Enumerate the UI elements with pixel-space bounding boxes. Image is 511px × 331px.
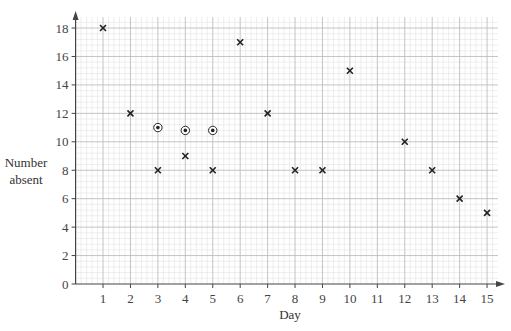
x-tick-label: 3 xyxy=(155,291,162,306)
y-tick-label: 6 xyxy=(62,191,69,206)
x-tick-label: 1 xyxy=(100,291,107,306)
x-tick-label: 15 xyxy=(481,291,494,306)
x-tick-label: 7 xyxy=(264,291,271,306)
x-tick-label: 5 xyxy=(210,291,217,306)
y-axis-ticks: 024681012141618 xyxy=(56,21,76,292)
circled-dot-marker-icon xyxy=(154,123,162,131)
x-axis-ticks: 123456789101112131415 xyxy=(100,284,494,306)
x-axis-arrow-icon xyxy=(496,281,505,287)
scatter-chart: 123456789101112131415 024681012141618 Da… xyxy=(0,0,511,331)
axes xyxy=(73,11,505,287)
y-tick-label: 16 xyxy=(56,49,70,64)
x-tick-label: 8 xyxy=(292,291,299,306)
y-axis-arrow-icon xyxy=(73,11,79,20)
x-tick-label: 2 xyxy=(127,291,134,306)
y-tick-label: 4 xyxy=(62,220,69,235)
y-tick-label: 10 xyxy=(56,134,69,149)
x-tick-label: 10 xyxy=(343,291,356,306)
y-tick-label: 2 xyxy=(62,248,69,263)
circled-dot-marker-icon xyxy=(181,126,189,134)
x-tick-label: 13 xyxy=(426,291,439,306)
x-tick-label: 14 xyxy=(453,291,467,306)
x-tick-label: 12 xyxy=(398,291,411,306)
y-tick-label: 18 xyxy=(56,21,69,36)
circled-dot-marker-icon xyxy=(209,126,217,134)
y-tick-label: 14 xyxy=(56,77,70,92)
y-axis-label-line1: Number xyxy=(5,155,48,170)
x-axis-label: Day xyxy=(279,307,301,322)
x-tick-label: 4 xyxy=(182,291,189,306)
y-tick-label: 0 xyxy=(62,277,69,292)
y-tick-label: 12 xyxy=(56,106,69,121)
x-tick-label: 11 xyxy=(371,291,384,306)
x-tick-label: 9 xyxy=(319,291,326,306)
minor-grid xyxy=(76,17,498,284)
y-tick-label: 8 xyxy=(62,163,69,178)
x-tick-label: 6 xyxy=(237,291,244,306)
y-axis-label-line2: absent xyxy=(9,172,43,187)
